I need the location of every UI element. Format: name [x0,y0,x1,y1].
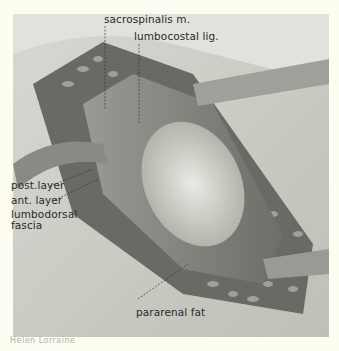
artist-signature: Helen Lorraine [10,336,75,345]
label-lumbocostal-ligament: lumbocostal lig. [134,31,219,42]
label-pararenal-fat: pararenal fat [136,307,205,318]
label-ant-layer: ant. layer [11,195,62,206]
label-sacrospinalis: sacrospinalis m. [104,14,190,25]
illustration-drawing [13,14,329,337]
label-fascia: fascia [11,220,42,231]
anatomical-illustration: sacrospinalis m. lumbocostal lig. post.l… [13,14,329,337]
label-post-layer: post.layer [11,180,64,191]
